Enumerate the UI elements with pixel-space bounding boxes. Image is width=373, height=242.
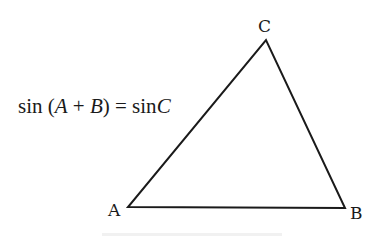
formula-var-b: B — [90, 94, 103, 118]
triangle-diagram: A B C — [0, 0, 373, 242]
vertex-label-c: C — [258, 16, 271, 36]
vertex-label-a: A — [107, 200, 121, 220]
sine-identity-formula: sin (A + B) = sinC — [18, 94, 171, 119]
triangle-abc — [128, 40, 345, 208]
formula-var-a: A — [55, 94, 68, 118]
formula-sin-left: sin — [18, 94, 43, 118]
formula-equals: = — [115, 94, 127, 118]
formula-sin-right: sin — [132, 94, 157, 118]
formula-var-c: C — [157, 94, 171, 118]
faint-caption-artifact — [102, 233, 282, 236]
formula-open-paren: ( — [48, 94, 55, 118]
formula-plus: + — [73, 94, 85, 118]
formula-close-paren: ) — [103, 94, 110, 118]
vertex-label-b: B — [350, 203, 363, 223]
